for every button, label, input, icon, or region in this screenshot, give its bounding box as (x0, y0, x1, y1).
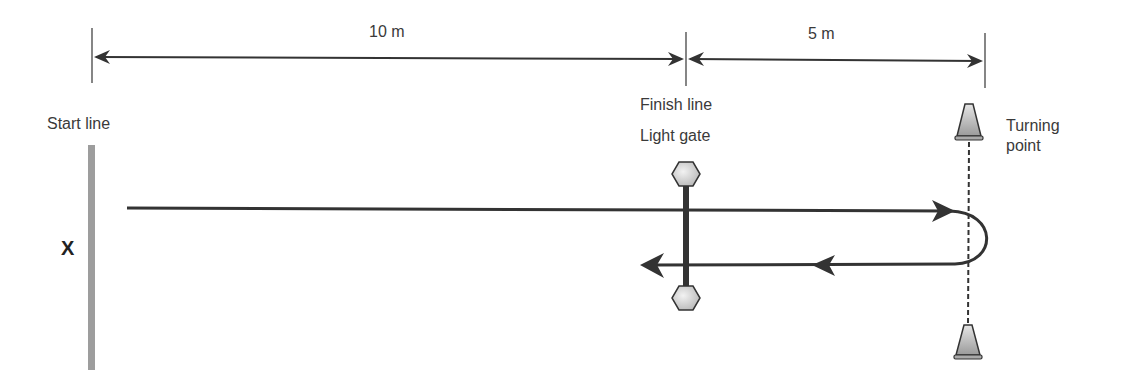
dimension-10m (94, 50, 684, 66)
course-diagram (0, 0, 1121, 386)
dimension-label-5m: 5 m (808, 24, 835, 44)
finish-line-label: Finish line (640, 95, 712, 115)
running-path (127, 208, 987, 265)
gate-post-bottom-icon (672, 286, 700, 310)
cone-bottom-icon (954, 325, 982, 359)
cone-top-icon (955, 104, 983, 140)
start-marker: X (61, 238, 74, 258)
turning-point-label-2: point (1006, 136, 1041, 156)
dimension-5m (688, 52, 983, 68)
start-line-label: Start line (47, 114, 110, 134)
gate-post-top-icon (672, 162, 700, 186)
light-gate-label: Light gate (640, 126, 710, 146)
light-gate (672, 162, 700, 310)
turning-line (968, 142, 969, 325)
turning-point-label-1: Turning (1006, 116, 1060, 136)
start-line-bar (88, 145, 95, 370)
dimension-label-10m: 10 m (369, 22, 405, 42)
